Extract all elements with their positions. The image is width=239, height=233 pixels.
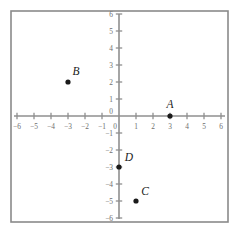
x-axis-tick-label: 1: [134, 122, 138, 131]
point-label-a: A: [165, 98, 174, 110]
x-axis-tick-label: −2: [81, 122, 89, 131]
y-axis-tick-label: −3: [105, 163, 113, 172]
x-axis-tick-label: 6: [219, 122, 223, 131]
y-axis-tick-label: 2: [109, 78, 113, 87]
x-axis-tick-label: 5: [202, 122, 206, 131]
point-label-b: B: [72, 65, 79, 77]
y-axis-tick-label: −2: [105, 146, 113, 155]
y-axis-tick-label: −5: [105, 197, 113, 206]
y-axis-tick-label: −6: [105, 214, 113, 223]
plotted-points: ABCD: [65, 65, 174, 204]
x-axis-tick-label: 3: [168, 122, 172, 131]
data-point-a: [167, 113, 172, 118]
axes: [14, 14, 225, 219]
coordinate-plane-figure: −6−5−4−3−2−1123456−6−5−4−3−2−112345600 A…: [0, 0, 239, 233]
data-point-c: [133, 198, 138, 203]
origin-label-upper: 0: [109, 107, 113, 116]
x-axis-tick-label: −4: [47, 122, 55, 131]
y-axis-tick-label: −1: [105, 129, 113, 138]
x-axis-tick-label: −3: [64, 122, 72, 131]
coordinate-plane-svg: −6−5−4−3−2−1123456−6−5−4−3−2−112345600 A…: [0, 0, 239, 233]
x-axis-tick-label: −6: [13, 122, 21, 131]
y-axis-tick-label: 6: [109, 10, 113, 19]
x-axis-tick-label: 2: [151, 122, 155, 131]
y-axis-tick-label: 4: [109, 44, 113, 53]
data-point-b: [65, 79, 70, 84]
x-axis-tick-label: −5: [30, 122, 38, 131]
data-point-d: [116, 164, 121, 169]
y-axis-tick-label: 1: [109, 95, 113, 104]
x-axis-tick-label: 4: [185, 122, 189, 131]
origin-label-lower: 0: [113, 122, 117, 131]
point-label-c: C: [141, 185, 149, 197]
y-axis-tick-label: −4: [105, 180, 113, 189]
y-axis-tick-label: 3: [109, 61, 113, 70]
point-label-d: D: [124, 151, 134, 163]
y-axis-tick-label: 5: [109, 27, 113, 36]
